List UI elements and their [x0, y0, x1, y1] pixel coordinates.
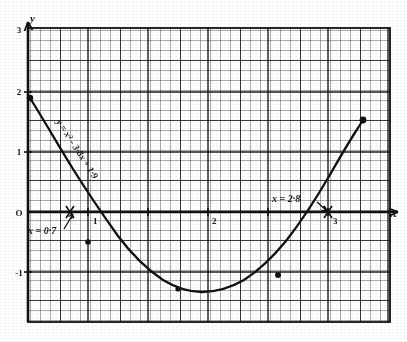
y-axis-label: y — [28, 12, 35, 24]
root-left-label: x = 0·7 — [27, 225, 57, 236]
x-tick-3: 3 — [333, 216, 338, 226]
x-tick-2: 2 — [212, 216, 217, 226]
y-tick-zero: O — [15, 208, 22, 218]
graph-svg: y X 3 2 1 O -1 1 2 3 x = 0·7 x = 2·8 y =… — [0, 0, 407, 342]
plot-point — [175, 286, 180, 291]
y-tick-neg-1: -1 — [15, 268, 23, 278]
plot-point — [27, 95, 33, 101]
plot-point — [275, 272, 281, 278]
root-right-label: x = 2·8 — [271, 193, 300, 204]
graph-figure: y X 3 2 1 O -1 1 2 3 x = 0·7 x = 2·8 y =… — [0, 0, 407, 342]
y-tick-3: 3 — [17, 25, 22, 35]
y-tick-1: 1 — [17, 147, 22, 157]
grid-background — [28, 28, 390, 322]
x-axis-label: X — [389, 207, 398, 219]
x-tick-1: 1 — [93, 216, 98, 226]
plot-point — [85, 239, 91, 245]
plot-point — [360, 117, 367, 124]
y-tick-2: 2 — [17, 87, 22, 97]
